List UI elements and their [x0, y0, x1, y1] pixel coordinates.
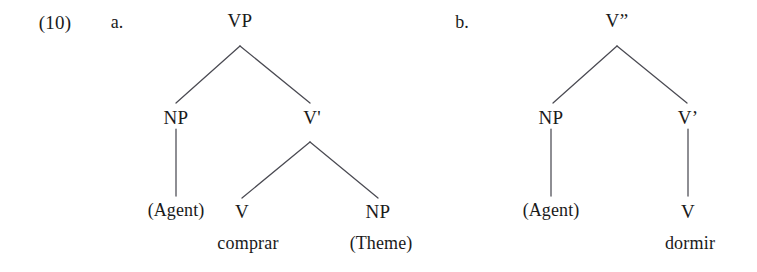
node-b-head-v: V [681, 202, 695, 221]
branch-vp-to-np [176, 46, 240, 103]
branch-vbar-to-v [242, 142, 310, 198]
terminal-b-dormir: dormir [665, 234, 715, 252]
branch-vdoubleprime-to-vbar [617, 46, 687, 103]
branch-vbar-to-np-complement [310, 142, 378, 198]
terminal-a-comprar: comprar [217, 234, 278, 252]
node-a-root-vp: VP [228, 11, 253, 30]
terminal-a-theme: (Theme) [350, 234, 413, 252]
node-b-root-vdoubleprime: V” [606, 11, 629, 30]
tree-label-b: b. [455, 13, 469, 31]
node-a-vbar: V' [303, 108, 321, 127]
branch-vdoubleprime-to-np [553, 46, 617, 103]
node-b-vbar: V’ [678, 108, 699, 127]
terminal-a-agent: (Agent) [148, 201, 205, 219]
node-a-head-v: V [235, 202, 249, 221]
tree-label-a: a. [111, 13, 124, 31]
example-number: (10) [39, 13, 71, 32]
node-a-spec-np: NP [164, 108, 189, 127]
figure-canvas: (10) a. VP NP V' (Agent) V NP comprar (T… [0, 0, 757, 272]
tree-branch-lines [0, 0, 757, 272]
terminal-b-agent: (Agent) [523, 201, 580, 219]
node-b-spec-np: NP [539, 108, 564, 127]
branch-vp-to-vbar [240, 46, 310, 103]
node-a-complement-np: NP [366, 202, 391, 221]
